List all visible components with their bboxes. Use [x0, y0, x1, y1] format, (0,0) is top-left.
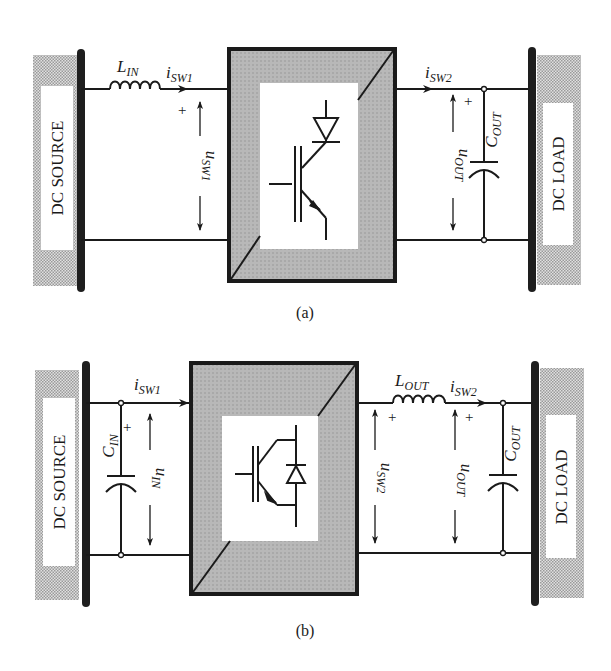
svg-text:+: + — [465, 409, 473, 425]
label-isw1-a: iSW1 — [166, 63, 193, 85]
svg-text:uSW2: uSW2 — [374, 463, 396, 494]
label-isw2-b: iSW2 — [450, 377, 477, 399]
svg-text:uIN: uIN — [149, 468, 171, 489]
svg-text:uSW1: uSW1 — [199, 151, 221, 182]
label-l-in-a: LIN — [116, 57, 139, 79]
dc-load-b: DC LOAD — [540, 368, 584, 598]
dc-source-a: DC SOURCE — [33, 55, 77, 286]
svg-text:uOUT: uOUT — [454, 464, 476, 498]
inductor-l-in-icon — [110, 82, 160, 90]
switch-block-b — [191, 363, 357, 594]
voltage-uin-b: + uIN — [123, 414, 171, 545]
voltage-usw2-b: + uSW2 — [374, 409, 396, 543]
dc-load-label-b: DC LOAD — [552, 449, 571, 524]
label-lout-b: LOUT — [394, 371, 430, 393]
svg-text:+: + — [178, 102, 186, 118]
capacitor-cin-b-icon — [106, 401, 136, 558]
label-cout-b: COUT — [501, 425, 523, 462]
diagram-a: DC SOURCE LIN iSW1 + uSW1 — [33, 49, 581, 322]
capacitor-cout-b-icon — [488, 401, 518, 556]
label-cin-b: CIN — [99, 433, 121, 457]
switch-block-a — [229, 49, 395, 281]
converter-diagrams: DC SOURCE LIN iSW1 + uSW1 — [0, 0, 611, 671]
inductor-l-out-icon — [393, 396, 445, 404]
dc-load-label-a: DC LOAD — [549, 136, 568, 211]
dc-source-label-a: DC SOURCE — [48, 121, 67, 216]
svg-text:+: + — [464, 93, 472, 109]
dc-source-label-b: DC SOURCE — [50, 435, 69, 530]
dc-source-b: DC SOURCE — [35, 370, 79, 600]
caption-b: (b) — [296, 622, 315, 640]
caption-a: (a) — [296, 304, 314, 322]
label-cout-a: COUT — [482, 111, 504, 148]
svg-text:+: + — [388, 409, 396, 425]
label-isw2-a: iSW2 — [425, 63, 452, 85]
capacitor-cout-a-icon — [469, 87, 499, 243]
svg-text:+: + — [123, 419, 131, 435]
voltage-uout-b: + uOUT — [454, 409, 476, 543]
diagram-b: DC SOURCE iSW1 CIN + uIN — [35, 363, 584, 640]
dc-load-a: DC LOAD — [537, 55, 581, 285]
label-isw1-b: iSW1 — [134, 375, 161, 397]
voltage-usw1-a: + uSW1 — [178, 102, 221, 230]
